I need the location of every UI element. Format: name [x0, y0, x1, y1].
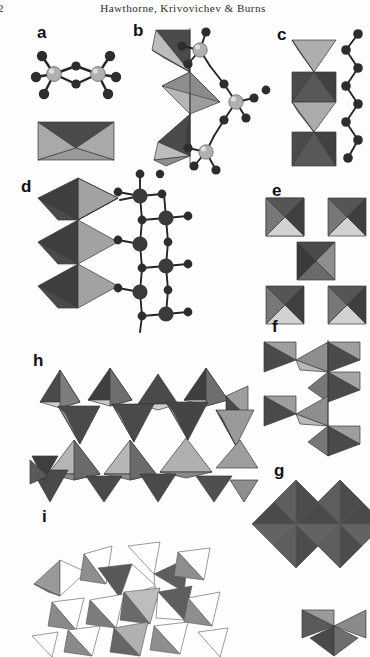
panel-label-i: i	[42, 508, 47, 525]
panel-c-graphic	[262, 28, 366, 176]
panel-d-graphic	[32, 176, 252, 326]
panel-i-graphic	[28, 540, 260, 657]
running-head: 2 Hawthorne, Krivovichev & Burns	[0, 2, 366, 18]
panel-b-graphic	[128, 24, 263, 179]
panel-label-a: a	[37, 24, 46, 41]
panel-g-fragment-graphic	[300, 608, 366, 657]
panel-f-graphic	[262, 336, 368, 460]
panel-label-g: g	[274, 462, 284, 479]
running-head-title: Hawthorne, Krivovichev & Burns	[0, 2, 366, 14]
panel-a-graphic	[24, 44, 129, 164]
panel-g-graphic	[270, 478, 370, 574]
panel-label-d: d	[21, 178, 31, 195]
panel-label-f: f	[272, 318, 278, 335]
panel-e-graphic	[262, 196, 368, 326]
panel-h-graphic	[30, 356, 258, 502]
